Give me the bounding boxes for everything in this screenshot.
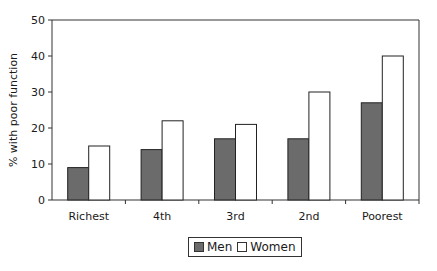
y-tick-label: 20 <box>31 122 45 135</box>
bar-men <box>288 139 309 200</box>
women-swatch-icon <box>237 242 247 252</box>
bar-men <box>361 103 382 200</box>
x-category-label: 2nd <box>298 210 319 223</box>
bar-women <box>162 121 183 200</box>
bar-chart: 01020304050% with poor functionRichest4t… <box>0 0 437 271</box>
chart-legend: Men Women <box>188 237 302 257</box>
legend-item-men: Men <box>194 240 232 254</box>
legend-item-women: Women <box>237 240 295 254</box>
x-category-label: Richest <box>68 210 109 223</box>
y-tick-label: 30 <box>31 86 45 99</box>
x-category-label: 3rd <box>226 210 244 223</box>
legend-label-women: Women <box>250 240 295 254</box>
bar-men <box>68 168 89 200</box>
bar-women <box>309 92 330 200</box>
y-tick-label: 40 <box>31 50 45 63</box>
y-tick-label: 0 <box>38 194 45 207</box>
y-tick-label: 50 <box>31 14 45 27</box>
legend-label-men: Men <box>207 240 232 254</box>
men-swatch-icon <box>194 242 204 252</box>
bar-men <box>215 139 236 200</box>
x-category-label: 4th <box>153 210 171 223</box>
y-axis-label: % with poor function <box>7 53 20 167</box>
y-tick-label: 10 <box>31 158 45 171</box>
bar-women <box>382 56 403 200</box>
bar-men <box>141 150 162 200</box>
bar-women <box>89 146 110 200</box>
x-category-label: Poorest <box>362 210 403 223</box>
bar-women <box>236 124 257 200</box>
